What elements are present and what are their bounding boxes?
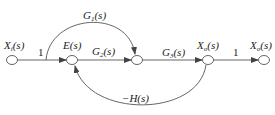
label-e: E(s) [63,40,81,51]
node-xo-out [259,56,270,65]
gain-g1: G1(s) [83,10,106,23]
gain-xo-out: 1 [233,47,239,58]
node-e [67,56,78,65]
gain-g3: G3(s) [162,47,185,60]
label-xo-mid: Xo(s) [197,40,219,53]
label-xi: Xi(s) [4,40,24,53]
node-n3 [132,56,143,65]
gain-xi-e: 1 [38,47,44,58]
node-xo-mid [203,56,214,65]
gain-g2: G2(s) [92,46,115,59]
branch-g1-arc [46,22,135,60]
node-xi [7,56,18,65]
label-xo-out: Xo(s) [250,40,272,53]
signal-flow-graph: Xi(s) E(s) Xo(s) Xo(s) 1 G2(s) G3(s) 1 G… [0,0,275,115]
gain-feedback: −H(s) [122,93,149,104]
